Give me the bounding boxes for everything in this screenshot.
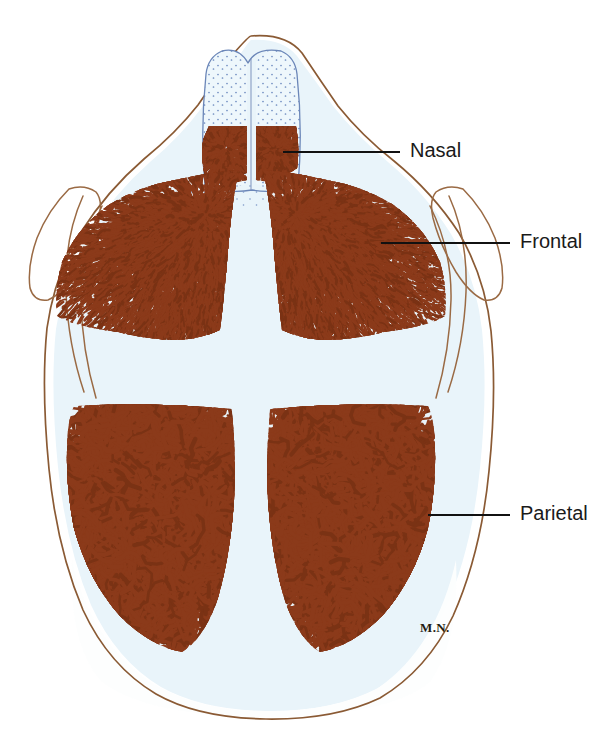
label-text-parietal: Parietal (520, 502, 588, 524)
label-text-nasal: Nasal (410, 139, 461, 161)
skull-diagram-svg: NasalFrontalParietal M.N. (0, 0, 602, 733)
artist-signature: M.N. (420, 620, 450, 635)
skull-diagram-figure: NasalFrontalParietal M.N. (0, 0, 602, 733)
label-text-frontal: Frontal (520, 230, 582, 252)
